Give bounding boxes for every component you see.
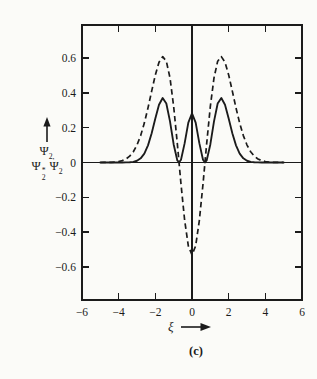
- y-tick-label: 0.4: [62, 87, 77, 99]
- x-axis-label: ξ: [168, 319, 211, 335]
- figure-panel: −6−4−202460.60.40.20−0.2−0.4−0.6 Ψ2, Ψ*2…: [0, 0, 317, 379]
- y-tick-label: −0.4: [55, 226, 76, 238]
- x-tick-label: −6: [76, 306, 88, 318]
- oscillator-wavefunction-chart: −6−4−202460.60.40.20−0.2−0.4−0.6: [0, 0, 317, 379]
- x-tick-label: −4: [113, 306, 125, 318]
- y-axis-label: Ψ2, Ψ*2Ψ2: [13, 117, 81, 182]
- x-tick-label: −2: [149, 306, 161, 318]
- x-tick-label: 0: [189, 306, 195, 318]
- y-tick-label: −0.2: [55, 191, 76, 203]
- y-axis-label-line1: Ψ2,: [13, 144, 81, 159]
- y-axis-label-line2: Ψ*2Ψ2: [13, 159, 81, 182]
- y-tick-label: −0.6: [55, 261, 76, 273]
- x-tick-label: 4: [262, 306, 268, 318]
- xi-symbol: ξ: [168, 319, 174, 335]
- y-tick-label: 0.6: [62, 52, 77, 64]
- figure-caption: (c): [152, 344, 240, 359]
- x-tick-label: 2: [226, 306, 232, 318]
- x-axis-right-arrow-icon: [181, 322, 211, 332]
- x-tick-label: 6: [299, 306, 305, 318]
- y-axis-up-arrow-icon: [13, 117, 81, 144]
